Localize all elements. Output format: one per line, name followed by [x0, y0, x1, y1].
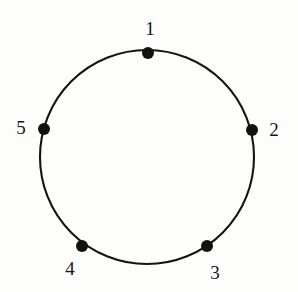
- vertex-label-1: 1: [145, 19, 155, 38]
- circle-outline: [40, 50, 254, 264]
- figure-canvas: 1 2 3 4 5: [0, 0, 298, 292]
- vertex-dot-1: [142, 47, 154, 59]
- vertex-dot-3: [201, 240, 213, 252]
- circle-diagram-svg: [0, 0, 298, 292]
- vertex-label-4: 4: [65, 259, 75, 278]
- circle-outline-group: [40, 50, 254, 264]
- vertex-label-2: 2: [269, 120, 279, 139]
- vertex-label-3: 3: [210, 263, 220, 282]
- vertex-label-5: 5: [16, 118, 26, 137]
- vertex-dot-5: [38, 123, 50, 135]
- vertex-dots-group: [38, 47, 258, 252]
- vertex-dot-2: [246, 124, 258, 136]
- vertex-dot-4: [76, 240, 88, 252]
